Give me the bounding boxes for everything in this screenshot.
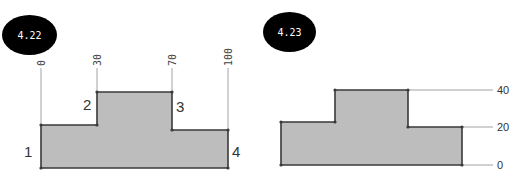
x-tick-label: 70: [167, 54, 178, 66]
step-label: 4: [232, 143, 240, 160]
y-tick-label: 0: [497, 159, 503, 171]
step-label: 2: [83, 96, 91, 113]
y-tick-label: 40: [497, 84, 509, 96]
y-tick-label: 20: [497, 121, 509, 133]
figure-4-22-diagram: 0 30 70 100 1 2 3 4 40 20 0: [0, 0, 514, 176]
stepped-profile-shape: [41, 92, 228, 168]
stepped-profile-shape: [281, 90, 462, 165]
step-label: 3: [176, 98, 184, 115]
figure-4-23-diagram: 40 20 0: [279, 84, 509, 171]
figure-number: 4.23: [277, 27, 301, 38]
step-label: 1: [24, 143, 32, 160]
figure-badge-4-23: 4.23: [263, 12, 316, 52]
x-tick-label: 0: [36, 60, 47, 66]
x-tick-label: 100: [223, 48, 234, 66]
x-tick-label: 30: [92, 54, 103, 66]
